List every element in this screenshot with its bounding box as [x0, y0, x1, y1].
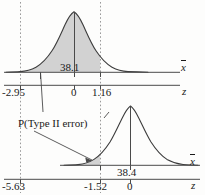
bottom-mean-label: 38.4	[117, 167, 136, 178]
bottom-xbar-axis-label-text: x	[190, 156, 195, 167]
bottom-z-tick-center-label: 0	[127, 181, 133, 192]
top-z-tick-left-label: -2.95	[2, 87, 25, 98]
type-ii-error-figure: 38.1 x -2.95 0 1.16 z P(Type II error) 3…	[0, 0, 205, 195]
type-ii-error-annotation: P(Type II error)	[18, 118, 87, 129]
bottom-z-tick-mid-label: -1.52	[84, 181, 107, 192]
annotation-tail-stroke	[104, 112, 109, 118]
top-xbar-axis-label: x	[181, 62, 186, 73]
top-z-axis-label: z	[182, 86, 186, 97]
top-xbar-axis-label-text: x	[181, 62, 186, 73]
bottom-z-axis-label: z	[191, 180, 195, 191]
annotation-arrow-shaft	[34, 131, 92, 160]
bottom-xbar-axis-label: x	[190, 156, 195, 167]
annotation-leader-line	[41, 72, 44, 112]
top-mean-label: 38.1	[60, 62, 79, 73]
top-z-tick-right-label: 1.16	[92, 87, 111, 98]
bottom-z-tick-left-label: -5.63	[2, 181, 25, 192]
top-z-tick-center-label: 0	[71, 87, 77, 98]
